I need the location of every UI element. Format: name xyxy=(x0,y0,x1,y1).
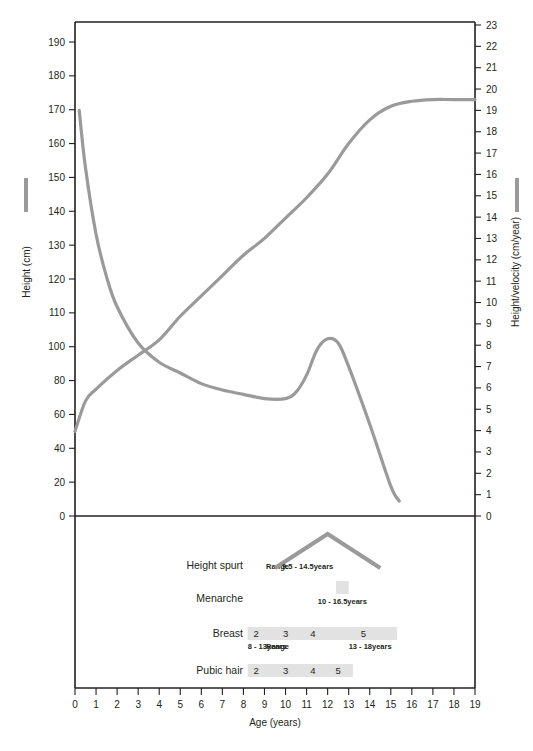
y-axis-left-ticklabel: 0 xyxy=(59,511,65,522)
tanner-stage-number: 3 xyxy=(283,628,288,639)
y-axis-left-ticklabel: 110 xyxy=(49,307,65,318)
x-axis-ticklabel: 12 xyxy=(322,699,334,710)
x-axis-ticklabel: 1 xyxy=(93,699,99,710)
stage-label: Menarche xyxy=(196,592,243,604)
x-axis-title: Age (years) xyxy=(249,717,301,728)
y-axis-right-ticklabel: 7 xyxy=(486,361,492,372)
y-axis-left-ticklabel: 190 xyxy=(48,37,65,48)
height-curve xyxy=(75,99,475,431)
y-axis-left-ticklabel: 160 xyxy=(48,138,65,149)
x-axis-ticklabel: 17 xyxy=(427,699,439,710)
stage-label: Pubic hair xyxy=(196,664,243,676)
stage-label: Height spurt xyxy=(186,559,243,571)
velocity-curve xyxy=(79,110,399,501)
y-axis-left-ticklabel: 80 xyxy=(54,375,66,386)
y-axis-right-ticklabel: 1 xyxy=(486,489,492,500)
y-axis-right-ticklabel: 6 xyxy=(486,382,492,393)
menarche-block-marker xyxy=(336,581,349,594)
stage-range-text: 9.5 - 14.5years xyxy=(282,562,333,571)
x-axis-ticklabel: 4 xyxy=(156,699,162,710)
x-axis-ticklabel: 2 xyxy=(114,699,120,710)
y-axis-right-ticklabel: 11 xyxy=(486,276,497,287)
stage-range-text: 10 - 16.5years xyxy=(318,597,367,606)
y-axis-right-ticklabel: 18 xyxy=(486,126,498,137)
y-axis-left-ticklabel: 40 xyxy=(54,443,66,454)
y-axis-right-ticklabel: 16 xyxy=(486,169,498,180)
y-axis-right-ticklabel: 22 xyxy=(486,41,498,52)
stage-sub-range-text: 8 - 13years xyxy=(248,642,287,651)
y-axis-right-ticklabel: 0 xyxy=(486,511,492,522)
stage-label: Breast xyxy=(213,627,243,639)
y-axis-left-ticklabel: 130 xyxy=(48,240,65,251)
x-axis-ticklabel: 5 xyxy=(177,699,183,710)
y-axis-right-ticklabel: 12 xyxy=(486,254,498,265)
y-axis-right-ticklabel: 4 xyxy=(486,425,492,436)
y-axis-right-ticklabel: 3 xyxy=(486,446,492,457)
x-axis-ticklabel: 9 xyxy=(262,699,268,710)
x-axis-ticklabel: 18 xyxy=(448,699,460,710)
x-axis-ticklabel: 0 xyxy=(72,699,78,710)
growth-chart-svg: 0204060801001101201301401501601701801900… xyxy=(0,0,533,751)
tanner-stage-number: 4 xyxy=(310,628,315,639)
x-axis-ticklabel: 16 xyxy=(406,699,418,710)
y-axis-left-ticklabel: 120 xyxy=(48,274,65,285)
y-axis-left-ticklabel: 60 xyxy=(54,409,66,420)
y-axis-right-ticklabel: 23 xyxy=(486,20,498,31)
y-axis-right-ticklabel: 10 xyxy=(486,297,498,308)
x-axis-ticklabel: 3 xyxy=(135,699,141,710)
y-axis-left-ticklabel: 150 xyxy=(48,172,65,183)
y-axis-right-ticklabel: 13 xyxy=(486,233,498,244)
y-axis-right-ticklabel: 5 xyxy=(486,404,492,415)
tanner-stage-number: 2 xyxy=(253,665,258,676)
y-axis-right-ticklabel: 9 xyxy=(486,318,492,329)
tanner-band xyxy=(248,627,397,640)
y-axis-right-ticklabel: 20 xyxy=(486,84,498,95)
y-axis-left-ticklabel: 20 xyxy=(54,477,66,488)
y-axis-left-ticklabel: 140 xyxy=(48,206,65,217)
x-axis-ticklabel: 6 xyxy=(199,699,205,710)
tanner-stage-number: 4 xyxy=(310,665,315,676)
x-axis-ticklabel: 10 xyxy=(280,699,292,710)
y-axis-left-ticklabel: 100 xyxy=(48,341,65,352)
x-axis-ticklabel: 11 xyxy=(301,699,312,710)
x-axis-ticklabel: 15 xyxy=(385,699,397,710)
tanner-stage-number: 5 xyxy=(361,628,366,639)
x-axis-ticklabel: 7 xyxy=(220,699,226,710)
y-axis-right-title: Height/velocity (cm/year) xyxy=(510,217,521,327)
y-axis-left-ticklabel: 180 xyxy=(48,70,65,81)
x-axis-ticklabel: 8 xyxy=(241,699,247,710)
y-axis-right-ticklabel: 2 xyxy=(486,468,492,479)
y-axis-right-ticklabel: 17 xyxy=(486,148,498,159)
y-axis-left-ticklabel: 170 xyxy=(48,104,65,115)
tanner-stage-number: 5 xyxy=(336,665,341,676)
y-axis-right-ticklabel: 21 xyxy=(486,62,498,73)
tanner-stage-number: 2 xyxy=(253,628,258,639)
growth-chart: 0204060801001101201301401501601701801900… xyxy=(0,0,533,751)
y-axis-right-ticklabel: 8 xyxy=(486,340,492,351)
tanner-stage-number: 3 xyxy=(283,665,288,676)
y-axis-right-ticklabel: 19 xyxy=(486,105,498,116)
y-axis-right-ticklabel: 15 xyxy=(486,190,498,201)
y-axis-left-title: Height (cm) xyxy=(21,246,32,298)
x-axis-ticklabel: 19 xyxy=(469,699,481,710)
y-axis-right-ticklabel: 14 xyxy=(486,212,498,223)
x-axis-ticklabel: 13 xyxy=(343,699,355,710)
x-axis-ticklabel: 14 xyxy=(364,699,376,710)
stage-sub-range-text: 13 - 18years xyxy=(349,642,392,651)
